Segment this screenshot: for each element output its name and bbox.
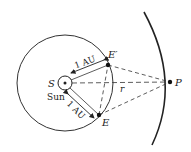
sun-name-label: Sun [47,92,65,102]
distance-label: r [120,84,125,94]
planet-label: P [174,77,182,88]
sun-symbol-label: S [48,78,55,89]
sun-dot [64,82,67,85]
earth-e-point [97,113,101,117]
earth-eprime-point [106,63,110,67]
planet-point [168,80,172,84]
sun-planet-line [72,82,170,83]
eprime-planet-line [108,65,170,82]
e-label: E [101,117,110,128]
e-planet-line [99,82,170,115]
parallax-diagram: S Sun E′ E P r 1 AU 1 AU [0,0,191,152]
au-lower-label: 1 AU [65,99,87,121]
planet-orbit-arc [144,12,165,145]
eprime-label: E′ [107,49,118,60]
